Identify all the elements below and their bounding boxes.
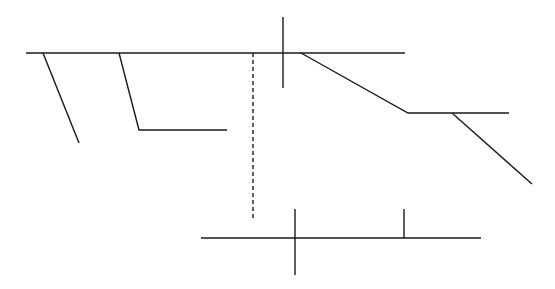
line-diagram — [0, 0, 555, 289]
diagram-svg — [0, 0, 555, 289]
background — [0, 0, 555, 289]
